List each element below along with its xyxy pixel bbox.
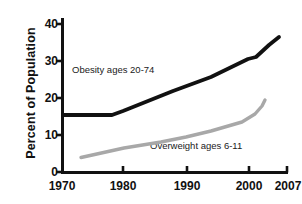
series-line-overweight (81, 100, 265, 158)
plot-area (0, 0, 302, 204)
series-line-obesity (63, 37, 279, 115)
chart-container: Percent of Population 0 10 20 30 40 1970… (0, 0, 302, 204)
